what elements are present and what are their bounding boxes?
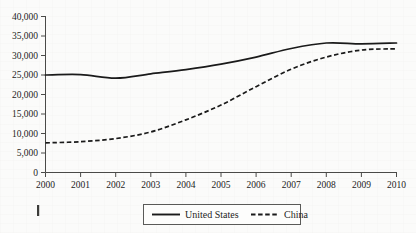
x-axis-ticks — [46, 173, 397, 178]
x-tick-label: 2008 — [317, 180, 336, 190]
x-tick-label: 2005 — [212, 180, 231, 190]
y-tick-label: 0 — [33, 168, 38, 178]
x-tick-label: 2002 — [106, 180, 125, 190]
x-tick-label: 2010 — [387, 180, 406, 190]
legend-label-united-states: United States — [185, 209, 239, 220]
x-tick-label: 2009 — [352, 180, 371, 190]
line-chart: 40,000 35,000 30,000 25,000 20,000 15,00… — [0, 0, 416, 233]
y-tick-label: 10,000 — [12, 129, 38, 139]
y-tick-label: 20,000 — [12, 90, 38, 100]
y-tick-label: 30,000 — [12, 51, 38, 61]
y-axis-ticks — [41, 17, 46, 173]
series-line-china — [46, 49, 397, 143]
chart-figure: 40,000 35,000 30,000 25,000 20,000 15,00… — [0, 0, 416, 233]
y-tick-label: 5,000 — [17, 148, 39, 158]
series-line-united-states — [46, 43, 397, 78]
x-tick-label: 2006 — [247, 180, 266, 190]
x-tick-label: 2003 — [141, 180, 160, 190]
chart-legend: United States China — [144, 205, 309, 225]
y-tick-label: 40,000 — [12, 12, 38, 22]
legend-label-china: China — [284, 209, 308, 220]
page-margin-tick — [37, 205, 39, 216]
y-tick-label: 35,000 — [12, 31, 38, 41]
x-tick-label: 2007 — [282, 180, 301, 190]
x-tick-label: 2000 — [36, 180, 55, 190]
x-tick-label: 2004 — [176, 180, 195, 190]
y-tick-label: 25,000 — [12, 70, 38, 80]
y-tick-label: 15,000 — [12, 109, 38, 119]
x-tick-label: 2001 — [71, 180, 90, 190]
